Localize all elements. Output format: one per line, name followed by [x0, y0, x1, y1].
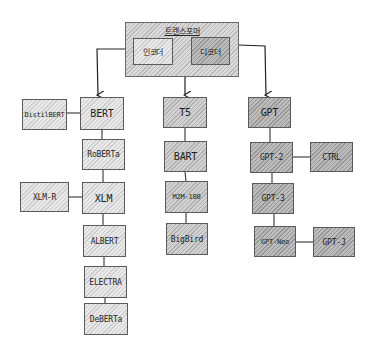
node-label: GPT-J: [322, 238, 345, 247]
decoder-label: 디코더: [200, 46, 220, 57]
node-label: GPT-2: [260, 153, 283, 162]
node-roberta: RoBERTa: [82, 139, 125, 170]
encoder-box: 인코더: [133, 38, 173, 65]
node-xlm-r: XLM-R: [20, 182, 69, 212]
node-label: ELECTRA: [89, 278, 121, 287]
node-label: M2M-100: [172, 193, 200, 201]
node-albert: ALBERT: [83, 225, 126, 257]
encoder-label: 인코더: [143, 46, 163, 57]
node-label: BART: [174, 151, 197, 162]
node-gpt-neo: GPT-Neo: [254, 226, 296, 257]
node-m2m-100: M2M-100: [165, 181, 208, 213]
node-label: DeBERTa: [90, 315, 122, 324]
node-gpt-j: GPT-J: [313, 227, 355, 257]
node-gpt-3: GPT-3: [252, 183, 294, 214]
node-distilbert: DistilBERT: [22, 99, 67, 130]
node-bigbird: BigBird: [166, 223, 208, 255]
node-label: XLM-R: [33, 193, 56, 202]
node-bart: BART: [164, 141, 207, 172]
node-label: DistilBERT: [24, 111, 64, 119]
node-label: XLM: [95, 193, 112, 204]
node-label: GPT-Neo: [261, 238, 289, 246]
node-label: GPT-3: [261, 194, 284, 203]
node-bert: BERT: [80, 97, 124, 130]
node-gpt-2: GPT-2: [250, 142, 293, 173]
node-xlm: XLM: [82, 182, 125, 214]
node-label: T5: [179, 107, 191, 118]
node-label: BERT: [90, 108, 113, 119]
node-label: BigBird: [171, 235, 203, 244]
node-gpt: GPT: [248, 97, 291, 128]
node-label: RoBERTa: [87, 150, 119, 159]
node-deberta: DeBERTa: [84, 303, 128, 335]
node-t5: T5: [163, 97, 207, 128]
node-label: GPT: [261, 107, 278, 118]
decoder-box: 디코더: [191, 37, 230, 65]
node-label: CTRL: [322, 153, 340, 162]
transformer-title: 트랜스포머: [126, 25, 238, 36]
transformer-box: 트랜스포머 인코더 디코더: [125, 22, 239, 77]
transformer-family-diagram: 트랜스포머 인코더 디코더 BERT RoBERTa XLM ALBERT EL…: [0, 0, 377, 354]
node-ctrl: CTRL: [310, 142, 353, 172]
node-label: ALBERT: [91, 237, 119, 246]
node-electra: ELECTRA: [84, 266, 127, 298]
